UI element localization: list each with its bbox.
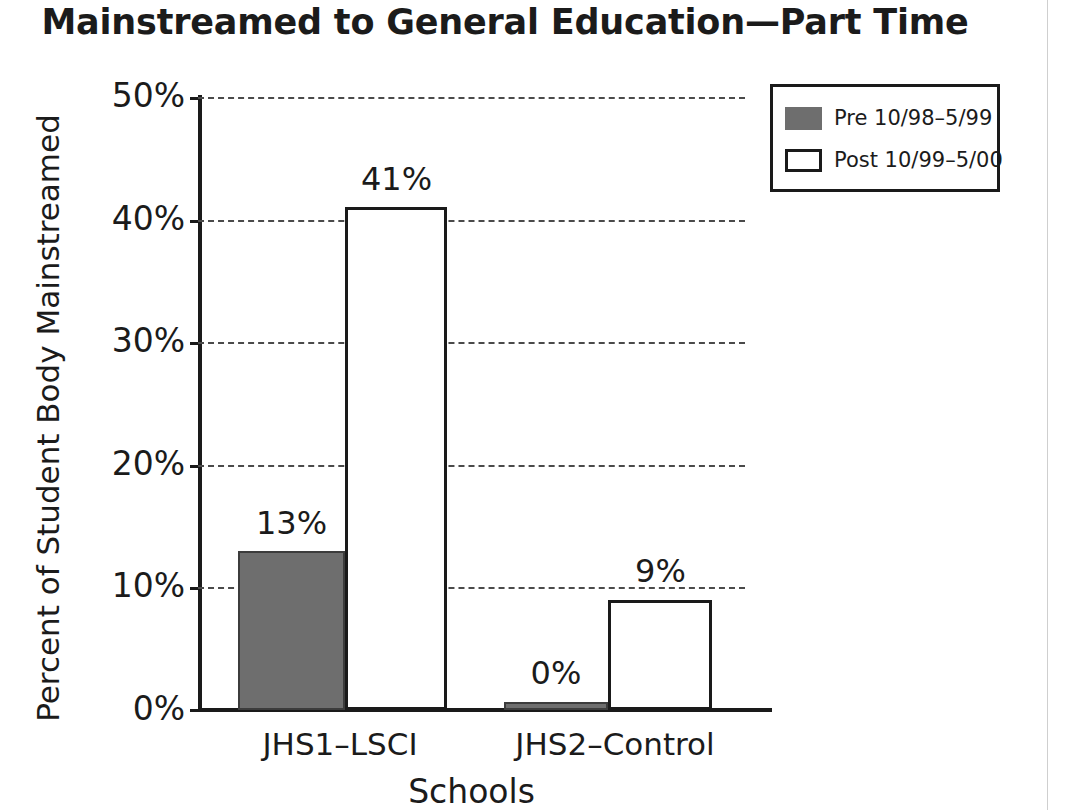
y-tick-label-group: 50% 40% 30% 20% 10% 0% [60, 0, 185, 810]
bar-jhs1-lsci-post[interactable] [345, 207, 447, 710]
y-tick-label-30: 30% [60, 321, 185, 360]
chart-figure: Mainstreamed to General Education—Part T… [0, 0, 1069, 810]
y-tick-label-40: 40% [60, 199, 185, 238]
legend: Pre 10/98–5/99 Post 10/99–5/00 [770, 84, 1000, 192]
gridline-30 [198, 342, 745, 344]
bar-jhs2-control-post[interactable] [608, 600, 712, 710]
bar-value-label-jhs2-control-pre: 0% [496, 654, 616, 692]
legend-swatch-post-icon [785, 149, 822, 172]
legend-label-pre: Pre 10/98–5/99 [834, 106, 992, 130]
bar-value-label-jhs1-lsci-pre: 13% [233, 504, 350, 542]
legend-item-post[interactable]: Post 10/99–5/00 [785, 139, 997, 181]
plot-area: 13% 41% 0% 9% [198, 97, 745, 710]
legend-label-post: Post 10/99–5/00 [834, 148, 1003, 172]
x-category-label-jhs1-lsci: JHS1–LSCI [230, 726, 450, 762]
bar-jhs1-lsci-pre[interactable] [238, 551, 345, 710]
x-category-label-jhs2-control: JHS2–Control [490, 726, 740, 762]
bar-value-label-jhs2-control-post: 9% [602, 552, 719, 590]
y-tick-label-50: 50% [60, 76, 185, 115]
legend-swatch-pre-icon [785, 107, 822, 130]
gridline-20 [198, 465, 745, 467]
gridline-40 [198, 220, 745, 222]
gridline-50 [198, 97, 745, 99]
x-axis-title: Schools [198, 772, 745, 810]
bar-jhs2-control-pre[interactable] [504, 702, 608, 710]
y-tick-label-20: 20% [60, 444, 185, 483]
page-edge-rule [1047, 0, 1048, 810]
bar-value-label-jhs1-lsci-post: 41% [338, 160, 455, 198]
legend-item-pre[interactable]: Pre 10/98–5/99 [785, 97, 997, 139]
y-tick-label-10: 10% [60, 566, 185, 605]
y-tick-label-0: 0% [60, 689, 185, 728]
